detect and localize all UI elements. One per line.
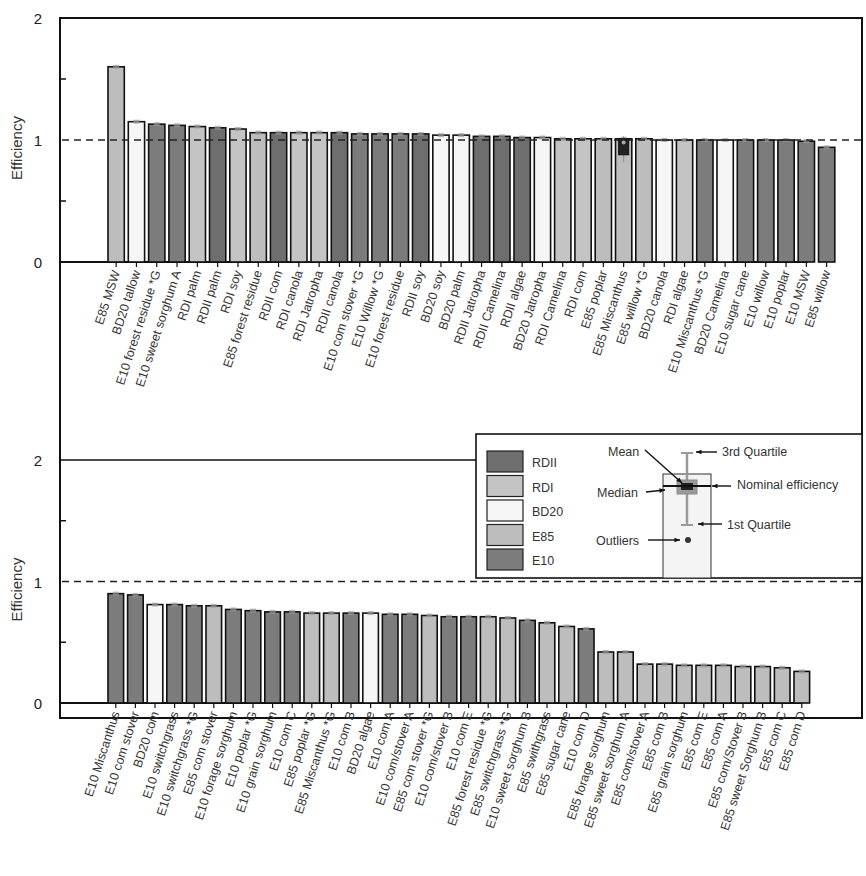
bar (210, 128, 226, 262)
bar (676, 140, 692, 262)
bar (735, 667, 751, 703)
legend-swatch (487, 525, 523, 546)
bar (534, 138, 550, 262)
bar (402, 614, 418, 703)
legend-label: E85 (532, 530, 554, 544)
bar (819, 147, 835, 262)
bar (363, 613, 379, 703)
legend-label: RDI (532, 481, 554, 495)
legend: RDIIRDIBD20E85E10Mean3rd QuartileMedianN… (476, 434, 862, 578)
bar (422, 616, 438, 703)
bar (304, 613, 320, 703)
bar (284, 612, 300, 703)
bar (331, 133, 347, 262)
bar (480, 617, 496, 703)
bar (717, 140, 733, 262)
bar (291, 133, 307, 262)
bar (169, 125, 185, 262)
bar (473, 136, 489, 262)
bar (657, 664, 673, 703)
bar (108, 594, 124, 703)
y-tick-label: 1 (34, 132, 42, 149)
bar (778, 140, 794, 262)
bar (636, 139, 652, 262)
bar (755, 667, 771, 703)
bar (555, 139, 571, 262)
legend-nominal-label: Nominal efficiency (737, 478, 839, 492)
y-tick-label: 2 (34, 10, 42, 27)
top-panel: 012EfficiencyE85 MSWBD20 tallowE10 fores… (8, 10, 862, 389)
bar (559, 626, 575, 703)
bar (676, 665, 692, 703)
bar (500, 618, 516, 703)
bar (392, 134, 408, 262)
bar (618, 652, 634, 703)
bar (343, 613, 359, 703)
bar (167, 605, 183, 703)
bar (697, 140, 713, 262)
bar (794, 671, 810, 703)
bar (265, 612, 281, 703)
bar (758, 140, 774, 262)
bar (149, 124, 165, 262)
y-axis-label: Efficiency (8, 116, 25, 180)
bar (575, 139, 591, 262)
bar (128, 122, 144, 262)
bar (324, 613, 340, 703)
bar (372, 134, 388, 262)
bar (352, 134, 368, 262)
legend-mean-label: Mean (608, 445, 639, 459)
bar (108, 67, 124, 262)
bar (598, 652, 614, 703)
efficiency-chart: 012EfficiencyE85 MSWBD20 tallowE10 fores… (0, 0, 866, 876)
bar (520, 620, 536, 703)
legend-swatch (487, 500, 523, 521)
legend-label: RDII (532, 456, 557, 470)
bar (539, 623, 555, 703)
legend-outliers-label: Outliers (596, 534, 639, 548)
y-axis-label: Efficiency (8, 557, 25, 621)
y-tick-label: 2 (34, 452, 42, 469)
bar (737, 140, 753, 262)
bar (716, 665, 732, 703)
bar (656, 140, 672, 262)
legend-swatch (487, 476, 523, 497)
bar (441, 617, 457, 703)
legend-q3-label: 3rd Quartile (722, 445, 787, 459)
legend-label: E10 (532, 554, 554, 568)
bar (774, 668, 790, 703)
legend-swatch (487, 549, 523, 570)
bar (461, 617, 477, 703)
bar (270, 133, 286, 262)
bar (494, 136, 510, 262)
bar (595, 139, 611, 262)
bar (578, 629, 594, 703)
legend-swatch (487, 451, 523, 472)
bar (798, 141, 814, 262)
bar (453, 135, 469, 262)
bar (311, 133, 327, 262)
bar (245, 611, 261, 703)
y-tick-label: 0 (34, 254, 42, 271)
bar (696, 665, 712, 703)
bar (250, 133, 266, 262)
bar (186, 606, 202, 703)
bar (637, 664, 653, 703)
bar (189, 127, 205, 262)
legend-label: BD20 (532, 505, 563, 519)
bar (230, 129, 246, 262)
bar (147, 605, 163, 703)
bar (206, 606, 222, 703)
legend-q1-label: 1st Quartile (727, 518, 791, 532)
bar (226, 609, 242, 703)
y-tick-label: 1 (34, 574, 42, 591)
bar (413, 134, 429, 262)
y-tick-label: 0 (34, 695, 42, 712)
bar (128, 595, 144, 703)
legend-median-label: Median (597, 486, 638, 500)
bar (433, 135, 449, 262)
bar (514, 138, 530, 262)
bar (382, 614, 398, 703)
